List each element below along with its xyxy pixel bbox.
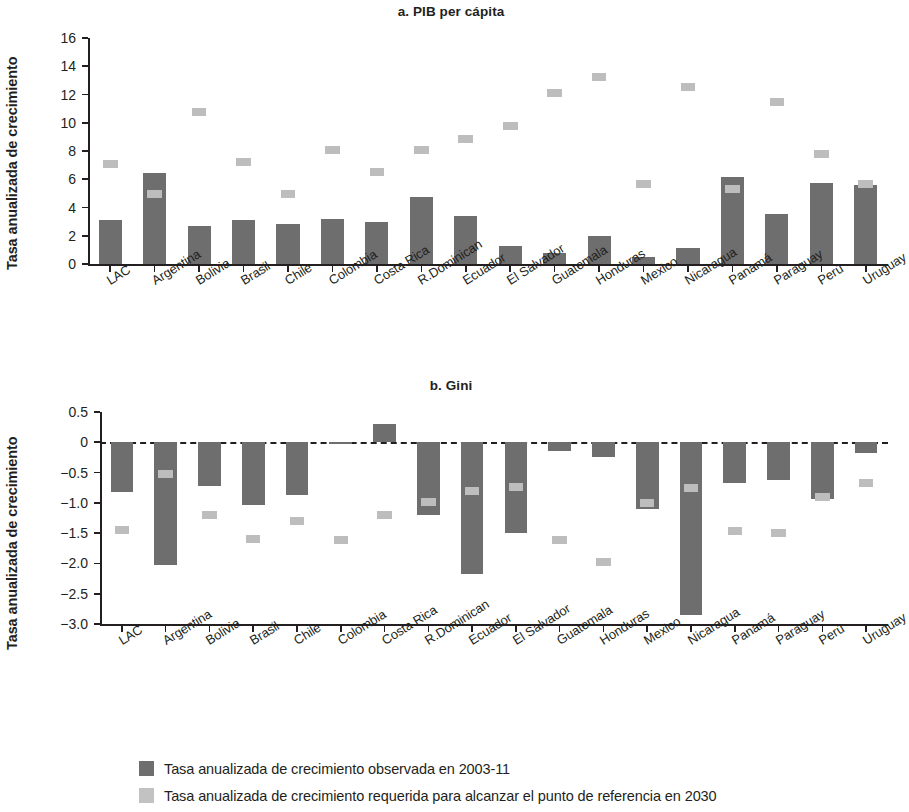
legend-swatch-required-icon — [139, 788, 154, 803]
marker-required — [684, 484, 698, 492]
marker-required — [421, 498, 435, 506]
marker-required — [158, 470, 172, 478]
bar-observed — [854, 185, 877, 264]
marker-required — [465, 487, 479, 495]
y-axis-tick-label: −0.5 — [42, 465, 88, 481]
marker-required — [202, 511, 216, 519]
marker-required — [290, 517, 304, 525]
bar-observed — [680, 442, 703, 615]
chart-panel-a: a. PIB per cápita Tasa anualizada de cre… — [0, 0, 902, 370]
marker-required — [281, 190, 296, 198]
y-axis-tick-label: 10 — [30, 115, 76, 131]
legend-item-required: Tasa anualizada de crecimiento requerida… — [139, 782, 899, 809]
marker-required — [858, 180, 873, 188]
x-axis-category-label: Uruguay — [860, 610, 909, 648]
marker-required — [728, 527, 742, 535]
marker-required — [681, 83, 696, 91]
bar-observed — [548, 442, 571, 450]
y-axis-tick-label: 8 — [30, 143, 76, 159]
marker-required — [640, 499, 654, 507]
marker-required — [458, 135, 473, 143]
bar-observed — [461, 442, 484, 574]
y-axis-tick — [94, 502, 100, 504]
y-axis-tick-label: −1.5 — [42, 525, 88, 541]
marker-required — [547, 89, 562, 97]
marker-required — [596, 558, 610, 566]
marker-required — [334, 536, 348, 544]
panel-a-y-axis-label: Tasa anualizada de crecimiento — [4, 56, 20, 270]
marker-required — [725, 185, 740, 193]
y-axis-tick-label: −3.0 — [42, 616, 88, 632]
marker-required — [503, 122, 518, 130]
bar-observed — [99, 220, 122, 264]
legend-item-observed: Tasa anualizada de crecimiento observada… — [139, 755, 899, 782]
y-axis-tick-label: 12 — [30, 87, 76, 103]
bar-observed — [276, 224, 299, 264]
bar-observed — [232, 220, 255, 264]
marker-required — [814, 150, 829, 158]
bar-observed — [676, 248, 699, 264]
y-axis-tick — [82, 263, 88, 265]
y-axis-tick — [94, 532, 100, 534]
panel-b-y-axis-label: Tasa anualizada de crecimiento — [4, 436, 20, 650]
y-axis-tick-label: 0 — [42, 434, 88, 450]
panel-a-title: a. PIB per cápita — [0, 4, 902, 19]
marker-required — [771, 529, 785, 537]
marker-required — [325, 146, 340, 154]
marker-required — [377, 511, 391, 519]
y-axis-tick-label: 14 — [30, 58, 76, 74]
bar-observed — [855, 442, 878, 452]
panel-a-plot-area: 0246810121416LACArgentinaBoliviaBrasilCh… — [88, 38, 888, 264]
marker-required — [592, 73, 607, 81]
y-axis-tick-label: 0 — [30, 256, 76, 272]
y-axis-tick-label: −2.5 — [42, 586, 88, 602]
y-axis-tick — [94, 411, 100, 413]
bar-observed — [811, 442, 834, 498]
y-axis-tick — [82, 235, 88, 237]
marker-required — [414, 146, 429, 154]
x-axis-category-label: Argentina — [160, 606, 214, 648]
marker-required — [147, 190, 162, 198]
bar-observed — [592, 442, 615, 457]
bar-observed — [767, 442, 790, 480]
bar-observed — [329, 442, 352, 444]
y-axis-tick-label: 0.5 — [42, 404, 88, 420]
bar-observed — [111, 442, 134, 492]
y-axis-tick — [82, 207, 88, 209]
y-axis-tick — [82, 37, 88, 39]
y-axis-tick — [94, 563, 100, 565]
y-axis-tick-label: 16 — [30, 30, 76, 46]
legend-swatch-observed-icon — [139, 761, 154, 776]
y-axis-tick-label: −2.0 — [42, 555, 88, 571]
marker-required — [115, 526, 129, 534]
marker-required — [192, 108, 207, 116]
legend-label-required: Tasa anualizada de crecimiento requerida… — [164, 788, 717, 804]
y-axis-tick-label: −1.0 — [42, 495, 88, 511]
bar-observed — [723, 442, 746, 483]
y-axis-tick — [82, 65, 88, 67]
y-axis-line — [88, 38, 90, 264]
y-axis-tick — [82, 94, 88, 96]
x-axis-category-label: Paraguay — [773, 606, 827, 648]
chart-legend: Tasa anualizada de crecimiento observada… — [139, 755, 899, 809]
marker-required — [246, 535, 260, 543]
panel-b-plot-area: 0.50−0.5−1.0−1.5−2.0−2.5−3.0LACArgentina… — [100, 412, 888, 624]
marker-required — [103, 160, 118, 168]
x-axis-category-label: Colombia — [335, 607, 389, 648]
bar-observed — [143, 173, 166, 264]
x-axis-category-label: Brasil — [247, 618, 282, 647]
y-axis-tick — [94, 623, 100, 625]
marker-required — [370, 168, 385, 176]
bar-observed — [242, 442, 265, 504]
marker-required — [815, 493, 829, 501]
y-axis-tick — [82, 122, 88, 124]
y-axis-tick — [82, 178, 88, 180]
marker-required — [770, 98, 785, 106]
bar-observed — [373, 424, 396, 442]
y-axis-tick-label: 4 — [30, 200, 76, 216]
marker-required — [859, 479, 873, 487]
legend-label-observed: Tasa anualizada de crecimiento observada… — [164, 761, 510, 777]
panel-b-title: b. Gini — [0, 378, 902, 393]
bar-observed — [286, 442, 309, 495]
